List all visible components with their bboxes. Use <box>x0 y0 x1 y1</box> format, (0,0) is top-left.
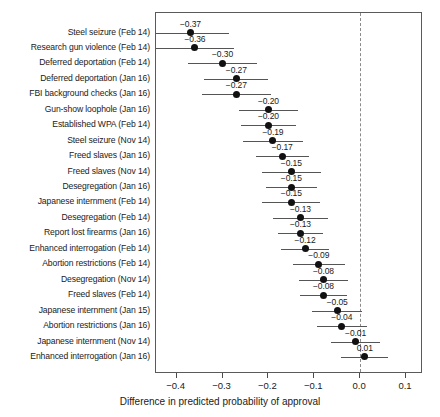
x-axis-tick <box>405 373 406 378</box>
estimate-value-label: −0.30 <box>212 49 233 59</box>
category-label: Gun-show loophole (Jan 16) <box>45 104 150 114</box>
category-label: Desegregation (Feb 14) <box>61 212 150 222</box>
estimate-value-label: 0.01 <box>357 343 373 353</box>
category-label: Report lost firearms (Jan 16) <box>44 227 150 237</box>
estimate-value-label: −0.01 <box>345 328 366 338</box>
estimate-value-label: −0.12 <box>295 235 316 245</box>
x-axis-tick-label: −0.3 <box>212 380 231 391</box>
x-axis-tick-label: 0.1 <box>398 380 411 391</box>
x-axis-tick-label: −0.4 <box>166 380 185 391</box>
estimate-value-label: −0.04 <box>331 312 352 322</box>
category-label: Freed slaves (Feb 14) <box>68 289 150 299</box>
zero-reference-line <box>360 13 361 372</box>
estimate-value-label: −0.27 <box>226 65 247 75</box>
category-label: Abortion restrictions (Feb 14) <box>42 258 150 268</box>
category-label: Freed slaves (Jan 16) <box>69 150 150 160</box>
category-label: Desegregation (Nov 14) <box>61 274 150 284</box>
category-label: Steel seizure (Feb 14) <box>68 27 150 37</box>
category-label: Abortion restrictions (Jan 16) <box>43 320 150 330</box>
forest-plot-figure: Steel seizure (Feb 14)Research gun viole… <box>0 0 440 417</box>
category-label: Japanese internment (Nov 14) <box>37 336 150 346</box>
category-label-axis: Steel seizure (Feb 14)Research gun viole… <box>0 12 150 373</box>
estimate-value-label: −0.08 <box>313 266 334 276</box>
x-axis-tick-label: −0.1 <box>304 380 323 391</box>
x-axis-tick <box>359 373 360 378</box>
estimate-value-label: −0.27 <box>226 80 247 90</box>
estimate-value-label: −0.09 <box>308 250 329 260</box>
x-axis-title: Difference in predicted probability of a… <box>0 396 440 407</box>
estimate-value-label: −0.19 <box>262 127 283 137</box>
category-label: Deferred deportation (Jan 16) <box>40 73 150 83</box>
category-label: Japanese internment (Feb 14) <box>38 196 150 206</box>
estimate-value-label: −0.17 <box>272 142 293 152</box>
category-label: Enhanced interrogation (Feb 14) <box>29 243 150 253</box>
category-label: Enhanced interrogation (Jan 16) <box>30 351 150 361</box>
estimate-value-label: −0.20 <box>258 111 279 121</box>
estimate-point <box>233 91 240 98</box>
category-label: Desegregation (Jan 16) <box>62 181 150 191</box>
estimate-value-label: −0.13 <box>290 204 311 214</box>
x-axis-tick-label: 0.0 <box>353 380 366 391</box>
estimate-point <box>361 353 368 360</box>
x-axis-tick <box>313 373 314 378</box>
estimate-point <box>191 44 198 51</box>
x-axis-tick <box>176 373 177 378</box>
estimate-value-label: −0.15 <box>281 173 302 183</box>
estimate-value-label: −0.13 <box>290 219 311 229</box>
category-label: Research gun violence (Feb 14) <box>31 42 150 52</box>
category-label: Established WPA (Feb 14) <box>52 119 150 129</box>
x-axis-tick <box>222 373 223 378</box>
category-label: FBI background checks (Jan 16) <box>29 88 150 98</box>
category-label: Steel seizure (Nov 14) <box>67 135 150 145</box>
category-label: Freed slaves (Nov 14) <box>68 166 150 176</box>
category-label: Deferred deportation (Feb 14) <box>39 57 150 67</box>
estimate-value-label: −0.37 <box>180 19 201 29</box>
category-label: Japanese internment (Jan 15) <box>39 305 150 315</box>
estimate-value-label: −0.15 <box>281 188 302 198</box>
x-axis-tick-label: −0.2 <box>258 380 277 391</box>
estimate-value-label: −0.36 <box>184 34 205 44</box>
estimate-value-label: −0.15 <box>281 158 302 168</box>
estimate-value-label: −0.20 <box>258 96 279 106</box>
plot-inner-area: −0.37−0.36−0.30−0.27−0.27−0.20−0.20−0.19… <box>156 13 421 372</box>
estimate-value-label: −0.05 <box>327 297 348 307</box>
plot-panel: −0.37−0.36−0.30−0.27−0.27−0.20−0.20−0.19… <box>155 12 422 373</box>
x-axis: −0.4−0.3−0.2−0.10.00.1 <box>155 373 422 393</box>
estimate-value-label: −0.08 <box>313 281 334 291</box>
x-axis-tick <box>267 373 268 378</box>
